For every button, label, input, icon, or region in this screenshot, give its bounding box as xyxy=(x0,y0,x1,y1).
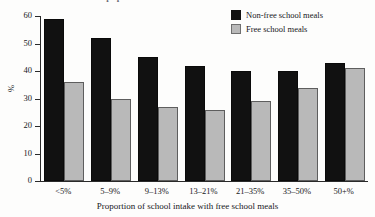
bar-group xyxy=(91,16,131,181)
y-axis-tick-40: 40 xyxy=(35,71,40,72)
y-axis-tick-label: 20 xyxy=(24,120,33,131)
bar-free xyxy=(111,99,131,182)
x-axis-tick-label: 5–9% xyxy=(87,186,134,197)
y-axis-tick-label: 50 xyxy=(24,38,33,49)
y-axis-tick-label: 10 xyxy=(24,148,33,159)
x-axis-tick-label: <5% xyxy=(40,186,87,197)
y-axis-tick-label: 60 xyxy=(24,10,33,21)
bar-group xyxy=(278,16,318,181)
y-axis-tick-label: 40 xyxy=(24,65,33,76)
bar-free xyxy=(298,88,318,182)
bar-group xyxy=(44,16,84,181)
clipped-title-text: of pupils xyxy=(96,0,131,2)
bar-chart-figure: of pupils Non-free school meals Free sch… xyxy=(0,0,375,217)
y-axis-tick-0: 0 xyxy=(35,181,40,182)
x-axis-tick-label: 9–13% xyxy=(133,186,180,197)
y-axis-tick-label: 30 xyxy=(24,93,33,104)
x-axis-tick-label: 35–50% xyxy=(274,186,321,197)
x-axis-tick-label: 13–21% xyxy=(180,186,227,197)
bar-non-free xyxy=(185,66,205,182)
bar-non-free xyxy=(138,57,158,181)
bar-non-free xyxy=(278,71,298,181)
bars-container xyxy=(41,16,368,181)
bar-group xyxy=(138,16,178,181)
y-axis-tick-50: 50 xyxy=(35,44,40,45)
bar-non-free xyxy=(44,19,64,181)
x-axis-label: Proportion of school intake with free sc… xyxy=(0,201,375,211)
bar-free xyxy=(64,82,84,181)
y-axis-label: % xyxy=(6,85,16,92)
plot-area: 0102030405060 <5%5–9%9–13%13–21%21–35%35… xyxy=(40,16,368,181)
x-axis-line xyxy=(40,181,368,182)
y-axis-tick-30: 30 xyxy=(35,99,40,100)
x-axis-tick-label: 21–35% xyxy=(227,186,274,197)
x-axis-tick-label: 50+% xyxy=(320,186,367,197)
bar-non-free xyxy=(91,38,111,181)
y-axis-tick-10: 10 xyxy=(35,154,40,155)
y-axis-tick-20: 20 xyxy=(35,126,40,127)
bar-group xyxy=(185,16,225,181)
bar-free xyxy=(205,110,225,182)
bar-free xyxy=(345,68,365,181)
clipped-title: of pupils xyxy=(0,0,375,5)
bar-non-free xyxy=(325,63,345,181)
bar-free xyxy=(251,101,271,181)
bar-free xyxy=(158,107,178,181)
bar-non-free xyxy=(231,71,251,181)
bar-group xyxy=(231,16,271,181)
y-axis-tick-label: 0 xyxy=(28,175,32,186)
bar-group xyxy=(325,16,365,181)
y-axis-tick-60: 60 xyxy=(35,16,40,17)
